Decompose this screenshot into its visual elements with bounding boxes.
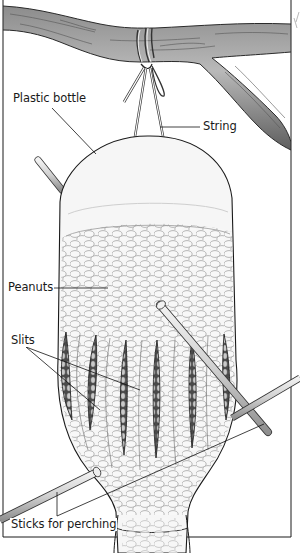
plastic-bottle [58,136,237,553]
label-plastic-bottle: Plastic bottle [12,92,87,105]
leader-plastic-bottle [52,108,96,154]
perch-stick-upper [38,160,62,190]
label-string: String [202,120,238,133]
sketch-mark [294,12,299,28]
label-slits: Slits [10,334,36,347]
label-sticks-for-perching: Sticks for perching [10,518,117,531]
label-peanuts: Peanuts [7,281,54,294]
tree-branch [3,6,291,150]
bird-feeder-illustration [0,0,300,553]
